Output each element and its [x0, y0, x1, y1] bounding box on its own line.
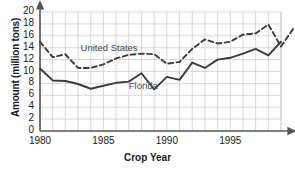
series-label-florida: Florida	[129, 80, 158, 91]
y-tick-8: 8	[12, 76, 34, 87]
line-chart: Amount (million tons) Crop Year 02468101…	[0, 0, 295, 172]
x-tick-1990: 1990	[147, 135, 187, 146]
y-tick-16: 16	[12, 29, 34, 40]
x-axis-title: Crop Year	[0, 152, 295, 163]
x-tick-1980: 1980	[20, 135, 60, 146]
y-tick-12: 12	[12, 53, 34, 64]
y-tick-20: 20	[12, 5, 34, 16]
series-label-united-states: United States	[81, 42, 138, 53]
y-tick-6: 6	[12, 88, 34, 99]
y-tick-4: 4	[12, 100, 34, 111]
y-tick-2: 2	[12, 112, 34, 123]
x-tick-1985: 1985	[83, 135, 123, 146]
y-tick-14: 14	[12, 41, 34, 52]
y-tick-0: 0	[12, 124, 34, 135]
x-tick-1995: 1995	[210, 135, 250, 146]
y-tick-18: 18	[12, 17, 34, 28]
y-tick-10: 10	[12, 65, 34, 76]
